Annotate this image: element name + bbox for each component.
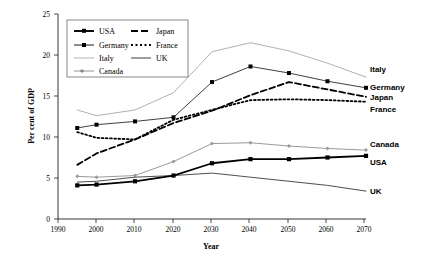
data-point (210, 80, 214, 84)
y-tick-label-0: 0 (46, 215, 50, 224)
end-label-germany: Germany (370, 83, 405, 92)
series-usa (75, 154, 368, 188)
end-label-italy: Italy (370, 65, 387, 74)
legend-label-germany: Germany (99, 41, 129, 50)
series-line-usa (77, 156, 366, 186)
data-point (75, 174, 79, 178)
y-ticks (54, 14, 58, 219)
series-line-japan (77, 82, 366, 165)
y-tick-label-5: 5 (46, 174, 50, 183)
data-point (95, 175, 99, 179)
data-point (75, 183, 79, 187)
data-point (326, 79, 330, 83)
data-point (364, 86, 368, 90)
data-point (249, 141, 253, 145)
x-tick-label-2000: 2000 (89, 225, 104, 234)
chart-container: 0 5 10 15 20 25 1990 2000 2010 2020 2030… (0, 0, 424, 264)
x-tick-label-2070: 2070 (357, 225, 372, 234)
data-point (210, 161, 214, 165)
legend: USA Germany Italy Canada Japan France UK (67, 20, 188, 77)
data-point (287, 157, 291, 161)
x-axis-title: Year (203, 242, 219, 251)
legend-label-canada: Canada (99, 67, 123, 76)
y-tick-label-25: 25 (43, 10, 51, 19)
x-tick-label-2020: 2020 (166, 225, 181, 234)
data-point (75, 126, 79, 130)
data-point (364, 148, 368, 152)
y-tick-labels: 0 5 10 15 20 25 (43, 10, 51, 224)
series-france (77, 99, 366, 139)
data-point (210, 142, 214, 146)
end-labels: Italy Germany Japan France Canada USA UK (370, 65, 405, 196)
legend-label-france: France (156, 41, 178, 50)
end-label-usa: USA (370, 158, 387, 167)
data-point (94, 182, 98, 186)
data-point (248, 157, 252, 161)
data-point (326, 146, 330, 150)
x-ticks (58, 219, 364, 223)
x-tick-labels: 1990 2000 2010 2020 2030 2040 2050 2060 … (51, 225, 372, 234)
end-label-japan: Japan (370, 93, 393, 102)
line-chart: 0 5 10 15 20 25 1990 2000 2010 2020 2030… (0, 0, 424, 264)
y-tick-label-20: 20 (43, 51, 51, 60)
x-tick-label-2050: 2050 (281, 225, 296, 234)
x-tick-label-2060: 2060 (319, 225, 334, 234)
data-point (95, 123, 99, 127)
legend-label-uk: UK (156, 54, 168, 63)
legend-label-italy: Italy (99, 54, 114, 63)
series-canada (75, 141, 368, 179)
legend-marker-germany (82, 43, 86, 47)
legend-marker-usa (82, 29, 86, 33)
data-point (287, 71, 291, 75)
end-label-canada: Canada (370, 140, 399, 149)
y-tick-label-15: 15 (43, 92, 51, 101)
series-line-france (77, 99, 366, 139)
x-tick-label-2030: 2030 (204, 225, 219, 234)
data-point (133, 179, 137, 183)
legend-label-usa: USA (99, 27, 115, 36)
legend-label-japan: Japan (156, 27, 174, 36)
series-japan (77, 82, 366, 165)
data-point (249, 64, 253, 68)
data-point (325, 155, 329, 159)
x-tick-label-2010: 2010 (127, 225, 142, 234)
data-point (172, 160, 176, 164)
series-line-canada (77, 143, 366, 177)
data-point (287, 144, 291, 148)
data-point (364, 154, 368, 158)
end-label-france: France (370, 105, 397, 114)
data-point (171, 173, 175, 177)
data-point (172, 115, 176, 119)
x-tick-label-1990: 1990 (51, 225, 66, 234)
data-point (133, 119, 137, 123)
y-tick-label-10: 10 (43, 133, 51, 142)
x-tick-label-2040: 2040 (242, 225, 257, 234)
end-label-uk: UK (370, 187, 382, 196)
y-axis-title: Per cent of GDP (27, 88, 36, 144)
